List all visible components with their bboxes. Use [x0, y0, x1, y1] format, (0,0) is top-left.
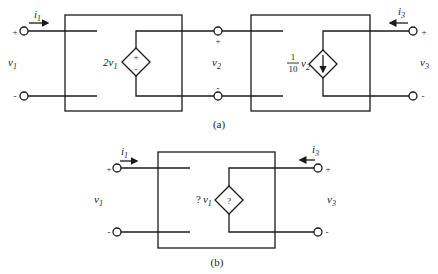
b-terminal-v3-minus — [314, 228, 322, 236]
b-v1-plus-sign: + — [106, 164, 111, 174]
terminal-v1-plus — [20, 27, 28, 35]
b-v1-label: v1 — [94, 193, 103, 208]
b-i1-label: i1 — [121, 145, 128, 160]
unknown-symbol: ? — [227, 196, 231, 206]
two-port-box-b — [158, 152, 275, 248]
b-v3-plus-sign: + — [325, 164, 330, 174]
gain-label-b: ?v1 — [196, 193, 212, 208]
v2-minus-sign: - — [217, 83, 220, 93]
circuit-figure: + - 2v1 + - v2 1 10 v2 + - v1 i1 + — [0, 0, 438, 274]
terminal-v1-minus — [20, 92, 28, 100]
terminal-v3-minus — [409, 92, 417, 100]
caption-b: (b) — [211, 256, 224, 269]
polarity-plus: + — [133, 52, 138, 62]
terminal-v3-plus — [409, 27, 417, 35]
v1-label: v1 — [8, 56, 17, 71]
b-v3-label: v3 — [327, 193, 336, 208]
circuit-b: ? ?v1 + - v1 i1 + - v3 i3 (b) — [94, 143, 336, 269]
gain-label-1: 2v1 — [103, 56, 117, 71]
polarity-minus: - — [135, 64, 138, 74]
b-terminal-v1-plus — [113, 164, 121, 172]
b-v3-minus-sign: - — [326, 227, 329, 237]
v3-label: v3 — [420, 56, 429, 71]
svg-text:v2: v2 — [301, 57, 310, 72]
block2-output-bottom-wire — [323, 78, 409, 96]
i3-label: i3 — [398, 5, 405, 20]
circuit-a: + - 2v1 + - v2 1 10 v2 + - v1 i1 + — [8, 5, 429, 131]
block2-output-top-wire — [323, 31, 409, 50]
i1-label: i1 — [34, 8, 41, 23]
v3-plus-sign: + — [421, 27, 426, 37]
block1-output-top-wire — [136, 31, 214, 48]
b-output-top-wire — [229, 168, 314, 186]
b-terminal-v3-plus — [314, 164, 322, 172]
v2-label: v2 — [212, 56, 221, 71]
b-i3-label: i3 — [312, 143, 319, 158]
svg-text:1: 1 — [291, 52, 296, 62]
v1-minus-sign: - — [14, 91, 17, 101]
gain-label-2: 1 10 v2 — [287, 52, 310, 74]
v1-plus-sign: + — [12, 27, 17, 37]
terminal-v2-plus — [214, 27, 222, 35]
b-v1-minus-sign: - — [108, 227, 111, 237]
svg-text:10: 10 — [289, 64, 299, 74]
b-terminal-v1-minus — [113, 228, 121, 236]
block1-output-bottom-wire — [136, 76, 214, 96]
v3-minus-sign: - — [422, 91, 425, 101]
terminal-v2-minus — [214, 92, 222, 100]
v2-plus-sign: + — [215, 36, 220, 46]
caption-a: (a) — [213, 118, 226, 131]
b-output-bottom-wire — [229, 214, 314, 232]
